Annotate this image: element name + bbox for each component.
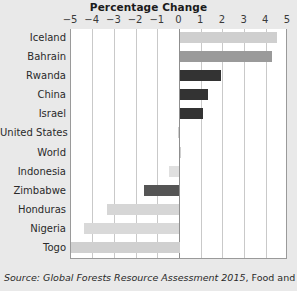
bar-rwanda: [180, 70, 221, 81]
bar-world: [180, 147, 182, 158]
source-title: Global Forests Resource Assessment 2015: [43, 272, 245, 283]
x-tick-1: 1: [197, 14, 203, 25]
bar-united-states: [178, 127, 179, 138]
y-axis-category-labels: IcelandBahrainRwandaChinaIsraelUnited St…: [0, 29, 66, 258]
bar-row: [71, 182, 286, 200]
x-tick-0: 0: [175, 14, 181, 25]
category-label-togo: Togo: [0, 242, 66, 253]
bar-honduras: [107, 204, 180, 215]
category-label-honduras: Honduras: [0, 204, 66, 215]
category-label-zimbabwe: Zimbabwe: [0, 185, 66, 196]
x-tick--5: −5: [63, 14, 78, 25]
bar-row: [71, 201, 286, 219]
bar-row: [71, 163, 286, 181]
bar-nigeria: [84, 223, 179, 234]
bar-row: [71, 86, 286, 104]
x-tick-5: 5: [284, 14, 290, 25]
chart-title: Percentage Change: [0, 1, 297, 13]
x-tick--4: −4: [84, 14, 99, 25]
x-tick-2: 2: [219, 14, 225, 25]
bar-bahrain: [180, 51, 272, 62]
category-label-indonesia: Indonesia: [0, 166, 66, 177]
plot-area: [70, 29, 287, 258]
category-label-iceland: Iceland: [0, 32, 66, 43]
category-label-israel: Israel: [0, 108, 66, 119]
bar-row: [71, 144, 286, 162]
x-tick-4: 4: [262, 14, 268, 25]
bar-row: [71, 220, 286, 238]
category-label-bahrain: Bahrain: [0, 51, 66, 62]
category-label-united-states: United States: [0, 127, 66, 138]
bar-row: [71, 29, 286, 47]
chart-figure: Percentage Change −5−4−3−2−1012345 Icela…: [0, 0, 297, 291]
bar-row: [71, 67, 286, 85]
category-label-rwanda: Rwanda: [0, 70, 66, 81]
category-label-world: World: [0, 147, 66, 158]
bar-indonesia: [169, 166, 180, 177]
bar-row: [71, 105, 286, 123]
x-axis-tick-labels: −5−4−3−2−1012345: [0, 14, 297, 27]
x-tick--2: −2: [128, 14, 143, 25]
source-publisher: , Food and Agriculture: [245, 272, 297, 283]
x-tick--1: −1: [149, 14, 164, 25]
bar-row: [71, 239, 286, 257]
category-label-china: China: [0, 89, 66, 100]
category-label-nigeria: Nigeria: [0, 223, 66, 234]
bar-row: [71, 48, 286, 66]
plot-bottom-rule: [70, 258, 287, 259]
bar-togo: [71, 242, 180, 253]
bar-iceland: [180, 32, 278, 43]
bar-china: [180, 89, 208, 100]
bar-israel: [180, 108, 204, 119]
source-prefix: Source:: [4, 272, 40, 283]
bar-zimbabwe: [144, 185, 180, 196]
bar-row: [71, 124, 286, 142]
source-note: Source: Global Forests Resource Assessme…: [4, 272, 296, 283]
x-tick--3: −3: [106, 14, 121, 25]
x-tick-3: 3: [240, 14, 246, 25]
